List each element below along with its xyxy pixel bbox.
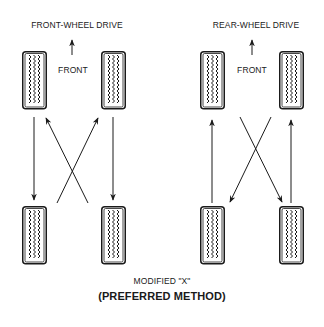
rwd-title: REAR-WHEEL DRIVE xyxy=(213,20,299,30)
subcaption: (PREFERRED METHOD) xyxy=(98,290,226,302)
arrow-rl-to-fr-icon xyxy=(57,118,98,203)
arrow-fl-to-rr-icon xyxy=(240,117,282,202)
tire-front-right xyxy=(102,52,126,109)
tire-front-left xyxy=(23,52,47,109)
arrow-rr-to-fl-icon xyxy=(46,118,88,203)
tire-rear-right xyxy=(102,207,126,264)
fwd-front-label: FRONT xyxy=(58,65,88,75)
tire-rear-left xyxy=(201,207,225,264)
tire-front-left xyxy=(201,52,225,109)
caption: MODIFIED "X" xyxy=(134,276,191,286)
fwd-title: FRONT-WHEEL DRIVE xyxy=(31,20,123,30)
tire-front-right xyxy=(280,52,304,109)
rwd-front-label: FRONT xyxy=(237,65,267,75)
tire-rear-right xyxy=(280,207,304,264)
tire-rear-left xyxy=(23,207,47,264)
arrow-fr-to-rl-icon xyxy=(230,117,271,202)
